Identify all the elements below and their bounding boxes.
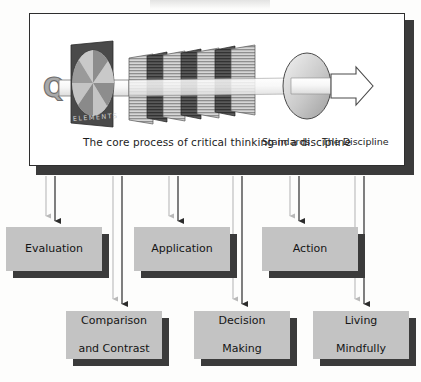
box-label: Action (289, 242, 331, 256)
svg-text:ELEMENTS: ELEMENTS (73, 112, 119, 123)
input-beam (59, 80, 129, 96)
box-label-line1: Living (332, 314, 390, 328)
box-label: Application (147, 242, 216, 256)
box-face: DecisionMaking (194, 311, 290, 359)
svg-text:Q: Q (43, 73, 65, 103)
box-label: DecisionMaking (211, 314, 274, 356)
box-face: Evaluation (6, 227, 102, 271)
box-label: Comparisonand Contrast (70, 314, 157, 356)
diagram-canvas: Q ELEMENTS (0, 0, 421, 382)
outcome-box-decision-making[interactable]: DecisionMaking (194, 311, 290, 359)
question-letter: Q (43, 73, 65, 103)
box-label: Evaluation (21, 242, 87, 256)
core-process-panel: Q ELEMENTS (29, 13, 405, 166)
scan-artifact (150, 0, 270, 9)
discipline-ellipse (283, 53, 331, 119)
box-face: Comparisonand Contrast (66, 311, 162, 359)
standards-planes (129, 45, 255, 124)
outcome-box-comparison-and-contrast[interactable]: Comparisonand Contrast (66, 311, 162, 359)
outcome-box-evaluation[interactable]: Evaluation (6, 227, 102, 271)
elements-block: ELEMENTS (71, 41, 119, 127)
box-label-line2: and Contrast (74, 342, 153, 356)
box-face: Application (134, 227, 230, 271)
box-face: Action (262, 227, 358, 271)
box-label-line2: Mindfully (332, 342, 390, 356)
box-label-line2: Making (215, 342, 270, 356)
output-arrow-icon (331, 67, 373, 105)
box-label-line1: Decision (215, 314, 270, 328)
outcome-box-action[interactable]: Action (262, 227, 358, 271)
box-label: LivingMindfully (328, 314, 394, 356)
outcome-box-living-mindfully[interactable]: LivingMindfully (313, 311, 409, 359)
outcome-box-application[interactable]: Application (134, 227, 230, 271)
process-beam (129, 78, 291, 96)
panel-caption: The core process of critical thinking in… (30, 136, 404, 148)
box-face: LivingMindfully (313, 311, 409, 359)
output-beam (291, 78, 331, 94)
box-label-line1: Comparison (74, 314, 153, 328)
